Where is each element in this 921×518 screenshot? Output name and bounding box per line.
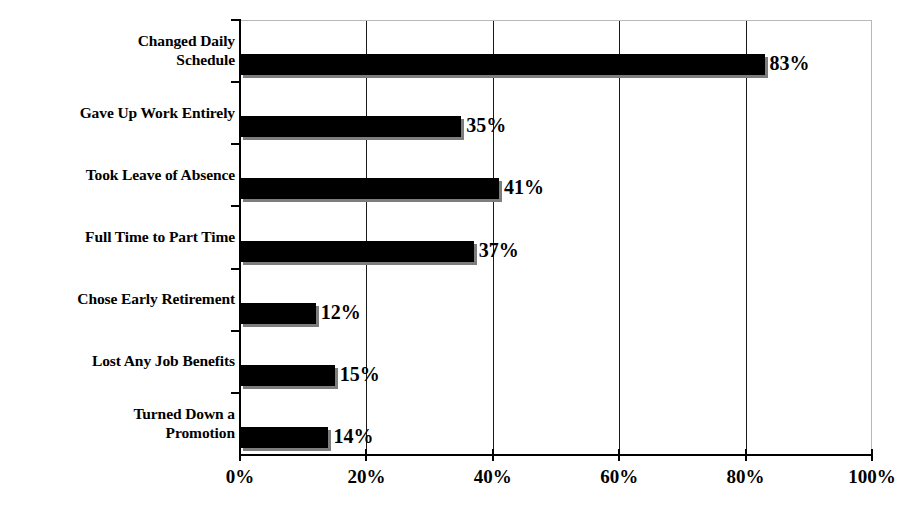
bar-value-label: 12% <box>321 302 361 323</box>
y-tick-mark <box>231 392 241 394</box>
category-label: Turned Down a Promotion <box>134 404 236 442</box>
bar <box>240 427 328 448</box>
x-tick-mark-0 <box>239 449 241 461</box>
bar <box>240 116 461 137</box>
category-label: Lost Any Job Benefits <box>92 351 235 370</box>
x-tick-mark-20 <box>365 449 367 461</box>
bar <box>240 241 474 262</box>
x-tick-mark-100 <box>871 449 873 461</box>
bar-fill <box>240 116 461 137</box>
bar-value-label: 41% <box>504 177 544 198</box>
category-label: Full Time to Part Time <box>85 227 235 246</box>
gridline-20 <box>366 21 367 456</box>
y-tick-mark <box>231 205 241 207</box>
x-tick-label: 20% <box>347 466 385 488</box>
bar-fill <box>240 178 499 199</box>
bar-value-label: 15% <box>340 364 380 385</box>
y-tick-mark <box>231 143 241 145</box>
x-tick-label: 80% <box>727 466 765 488</box>
x-tick-label: 0% <box>226 466 255 488</box>
bar <box>240 365 335 386</box>
y-tick-mark <box>231 81 241 83</box>
bar <box>240 178 499 199</box>
category-label: Changed Daily Schedule <box>138 31 235 69</box>
x-tick-mark-80 <box>745 449 747 461</box>
bar-fill <box>240 427 328 448</box>
x-tick-label: 60% <box>600 466 638 488</box>
bar-value-label: 83% <box>770 53 810 74</box>
bar-fill <box>240 54 765 75</box>
bar <box>240 303 316 324</box>
y-tick-mark <box>231 330 241 332</box>
bar-value-label: 37% <box>479 240 519 261</box>
gridline-60 <box>619 21 620 456</box>
gridline-80 <box>746 21 747 456</box>
bar-chart: 0%20%40%60%80%100%Changed Daily Schedule… <box>0 0 921 518</box>
bar-fill <box>240 365 335 386</box>
bar-fill <box>240 241 474 262</box>
x-tick-mark-40 <box>492 449 494 461</box>
category-label: Chose Early Retirement <box>77 289 235 308</box>
x-tick-label: 100% <box>848 466 896 488</box>
bar-value-label: 14% <box>333 426 373 447</box>
category-label: Gave Up Work Entirely <box>80 103 235 122</box>
category-label: Took Leave of Absence <box>86 165 235 184</box>
bar-fill <box>240 303 316 324</box>
x-tick-label: 40% <box>474 466 512 488</box>
x-tick-mark-60 <box>618 449 620 461</box>
bar <box>240 54 765 75</box>
y-tick-mark <box>231 268 241 270</box>
plot-area <box>240 20 872 455</box>
y-tick-mark <box>231 19 241 21</box>
bar-value-label: 35% <box>466 115 506 136</box>
